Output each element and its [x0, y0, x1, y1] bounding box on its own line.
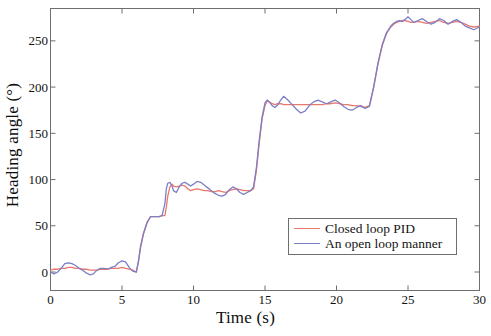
x-tick-label: 10: [174, 293, 214, 307]
x-axis-label: Time (s): [0, 308, 491, 328]
figure-container: Heading angle (°) 050100150200250 051015…: [0, 0, 491, 336]
x-tick-label: 20: [317, 293, 357, 307]
x-tick-label: 30: [460, 293, 491, 307]
legend-swatch-closed-loop-pid: [294, 228, 320, 229]
x-tick-label: 25: [388, 293, 428, 307]
legend-label-open-loop-manner: An open loop manner: [325, 236, 442, 251]
x-tick-label: 5: [102, 293, 142, 307]
legend-item-open-loop-manner: An open loop manner: [294, 236, 451, 251]
x-tick-label: 15: [245, 293, 285, 307]
x-tick-label-layer: 051015202530: [0, 0, 491, 336]
legend-item-closed-loop-pid: Closed loop PID: [294, 221, 451, 236]
legend: Closed loop PID An open loop manner: [288, 218, 457, 255]
legend-label-closed-loop-pid: Closed loop PID: [325, 221, 415, 236]
legend-swatch-open-loop-manner: [294, 243, 320, 244]
x-tick-label: 0: [31, 293, 71, 307]
